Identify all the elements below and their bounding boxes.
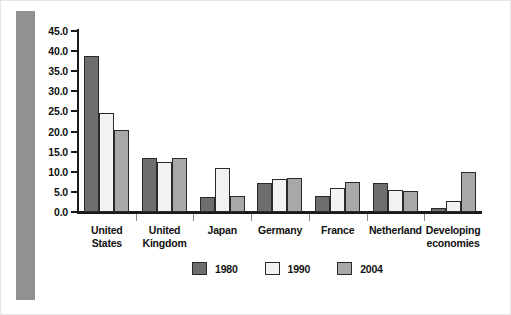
bar-group (136, 31, 194, 212)
bar-1990-united-states (99, 113, 114, 212)
category-label-line: United (78, 224, 136, 237)
y-axis-tick-label: 30.0 (48, 85, 68, 97)
y-axis-tick-mark (71, 90, 78, 92)
chart-legend: 198019902004 (192, 262, 410, 275)
y-axis-tick-label: 20.0 (48, 126, 68, 138)
y-axis-tick-mark (71, 151, 78, 153)
category-label-line: Japan (193, 224, 251, 237)
bar-group (78, 31, 136, 212)
bar-group (367, 31, 425, 212)
x-axis-category-label: Germany (251, 224, 309, 237)
y-axis-tick-label: 25.0 (48, 105, 68, 117)
bar-1990-france (330, 188, 345, 212)
bar-1980-germany (257, 183, 272, 212)
y-axis-tick-labels: 0.05.010.015.020.025.030.035.040.045.0 (0, 0, 68, 315)
x-axis-category-label: UnitedStates (78, 224, 136, 249)
x-axis-category-label: Japan (193, 224, 251, 237)
bar-2004-japan (230, 196, 245, 212)
category-label-line: economies (424, 237, 482, 250)
legend-swatch-icon (192, 262, 207, 275)
legend-label: 1990 (288, 263, 311, 275)
category-label-line: United (136, 224, 194, 237)
x-axis-group-separator (136, 214, 137, 221)
bar-2004-united-states (114, 130, 129, 212)
bar-group (251, 31, 309, 212)
y-axis-tick-mark (71, 131, 78, 133)
y-axis-tick-label: 15.0 (48, 146, 68, 158)
bar-2004-united-kingdom (172, 158, 187, 212)
y-axis-tick-mark (71, 50, 78, 52)
bar-group (309, 31, 367, 212)
x-axis-category-label: Developingeconomies (424, 224, 482, 249)
y-axis-tick-mark (71, 211, 78, 213)
bar-1980-united-kingdom (142, 158, 157, 212)
bar-1980-netherland (373, 183, 388, 212)
bar-1990-germany (272, 179, 287, 212)
legend-swatch-icon (265, 262, 280, 275)
category-label-line: Developing (424, 224, 482, 237)
y-axis-tick-mark (71, 70, 78, 72)
bar-chart-figure: 0.05.010.015.020.025.030.035.040.045.0 U… (0, 0, 511, 315)
bar-group (424, 31, 482, 212)
bar-1990-united-kingdom (157, 162, 172, 212)
category-label-line: States (78, 237, 136, 250)
legend-swatch-icon (337, 262, 352, 275)
x-axis-group-separator (251, 214, 252, 221)
legend-label: 1980 (215, 263, 238, 275)
x-axis-group-separator (424, 214, 425, 221)
plot-area (78, 31, 482, 212)
bar-1990-japan (215, 168, 230, 212)
bar-2004-netherland (403, 191, 418, 212)
y-axis-tick-label: 35.0 (48, 65, 68, 77)
x-axis-category-label: Netherland (367, 224, 425, 237)
x-axis-group-separator (193, 214, 194, 221)
bar-2004-developing-economies (461, 172, 476, 212)
y-axis-tick-label: 0.0 (54, 206, 68, 218)
bar-1990-developing-economies (446, 201, 461, 212)
x-axis-group-separator (367, 214, 368, 221)
y-axis-tick-label: 45.0 (48, 25, 68, 37)
bar-1980-developing-economies (431, 208, 446, 212)
x-axis-category-label: UnitedKingdom (136, 224, 194, 249)
legend-item-1990[interactable]: 1990 (265, 262, 311, 275)
category-label-line: Netherland (367, 224, 425, 237)
x-axis-category-label: France (309, 224, 367, 237)
category-label-line: France (309, 224, 367, 237)
bar-2004-germany (287, 178, 302, 212)
category-label-line: Kingdom (136, 237, 194, 250)
legend-item-2004[interactable]: 2004 (337, 262, 383, 275)
y-axis-tick-label: 40.0 (48, 45, 68, 57)
y-axis-tick-mark (71, 30, 78, 32)
y-axis-tick-mark (71, 191, 78, 193)
y-axis-tick-mark (71, 110, 78, 112)
legend-label: 2004 (360, 263, 383, 275)
legend-item-1980[interactable]: 1980 (192, 262, 238, 275)
y-axis-tick-label: 10.0 (48, 166, 68, 178)
bar-1980-united-states (84, 56, 99, 212)
bar-1990-netherland (388, 190, 403, 212)
bar-2004-france (345, 182, 360, 212)
bar-1980-france (315, 196, 330, 212)
y-axis-tick-mark (71, 171, 78, 173)
bar-group (193, 31, 251, 212)
bar-1980-japan (200, 197, 215, 212)
y-axis-tick-label: 5.0 (54, 186, 68, 198)
category-label-line: Germany (251, 224, 309, 237)
x-axis-group-separator (309, 214, 310, 221)
